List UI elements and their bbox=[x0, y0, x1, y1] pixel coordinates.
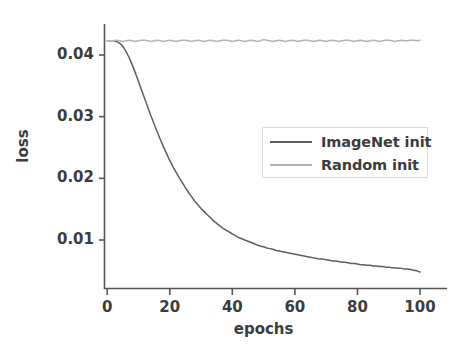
legend-swatch-random-init bbox=[270, 164, 312, 166]
legend[interactable]: ImageNet init Random init bbox=[262, 127, 428, 178]
legend-label-imagenet-init: ImageNet init bbox=[321, 134, 431, 150]
x-axis-label: epochs bbox=[194, 320, 334, 338]
legend-label-random-init: Random init bbox=[321, 157, 419, 173]
y-tick-label: 0.03 bbox=[0, 107, 94, 125]
loss-curve-figure: loss epochs 0.010.020.030.04 02040608010… bbox=[0, 0, 458, 347]
legend-item-imagenet-init[interactable]: ImageNet init bbox=[270, 131, 431, 153]
legend-swatch-imagenet-init bbox=[270, 141, 312, 143]
x-tick-label: 100 bbox=[380, 298, 458, 316]
legend-item-random-init[interactable]: Random init bbox=[270, 154, 419, 176]
y-tick-label: 0.02 bbox=[0, 168, 94, 186]
y-tick-label: 0.01 bbox=[0, 230, 94, 248]
y-tick-label: 0.04 bbox=[0, 45, 94, 63]
series-line-random-init bbox=[107, 40, 420, 42]
x-axis-ticks bbox=[107, 289, 420, 295]
